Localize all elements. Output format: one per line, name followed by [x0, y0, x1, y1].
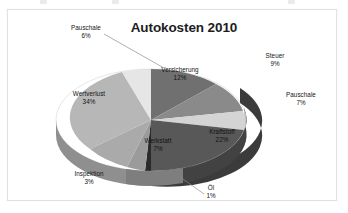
label-werkstatt: Werkstatt 7% [130, 137, 186, 153]
label-percent: 7% [272, 99, 330, 107]
label-name: Pauschale [272, 91, 330, 99]
label-percent: 7% [130, 145, 186, 153]
label-percent: 1% [194, 192, 228, 200]
scan-artifact-mark [288, 0, 295, 4]
label-percent: 22% [194, 136, 250, 144]
label-wertverlust: Wertverlust 34% [58, 90, 120, 106]
chart-plot-area: Autokosten 2010 [8, 10, 336, 200]
label-inspektion: Inspektion 3% [60, 170, 118, 186]
label-oel: Öl 1% [194, 184, 228, 200]
label-percent: 9% [248, 60, 302, 68]
label-name: Wertverlust [58, 90, 120, 98]
label-name: Kraftstoff [194, 128, 250, 136]
scan-artifacts [0, 0, 348, 7]
label-name: Pauschale [56, 24, 116, 32]
label-versicherung: Versicherung 12% [148, 66, 212, 82]
label-percent: 3% [60, 178, 118, 186]
label-pauschale-6: Pauschale 6% [56, 24, 116, 40]
label-percent: 12% [148, 74, 212, 82]
scan-artifact-mark [40, 0, 47, 4]
label-name: Öl [194, 184, 228, 192]
label-steuer: Steuer 9% [248, 52, 302, 68]
label-percent: 6% [56, 32, 116, 40]
label-name: Versicherung [148, 66, 212, 74]
label-kraftstoff: Kraftstoff 22% [194, 128, 250, 144]
chart-card: Autokosten 2010 [7, 9, 337, 201]
screenshot-root: Autokosten 2010 [0, 0, 348, 213]
label-name: Inspektion [60, 170, 118, 178]
label-name: Steuer [248, 52, 302, 60]
label-name: Werkstatt [130, 137, 186, 145]
scan-artifact-mark [112, 0, 119, 4]
label-pauschale-7: Pauschale 7% [272, 91, 330, 107]
label-percent: 34% [58, 98, 120, 106]
